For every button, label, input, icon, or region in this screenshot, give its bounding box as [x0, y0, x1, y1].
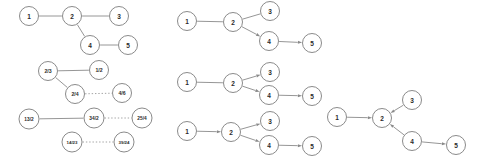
node-label: 14/23 — [67, 140, 79, 145]
graph-node[interactable]: 3 — [261, 2, 280, 21]
node-label: 5 — [454, 142, 458, 149]
graph-panel-fraction-labeled-graph: 2/31/22/44/613/234/225/414/2339/24 — [19, 61, 152, 153]
graph-node[interactable]: 5 — [303, 34, 322, 53]
node-label: 4 — [88, 42, 92, 49]
graph-edge-q2-to-q4 — [241, 135, 256, 140]
diagram-canvas: 123452/31/22/44/613/234/225/414/2339/241… — [0, 0, 484, 168]
graph-node[interactable]: 5 — [303, 137, 322, 156]
graph-edge-m2-to-m3 — [243, 14, 261, 19]
graph-node[interactable]: 4 — [81, 36, 100, 55]
graph-panel-directed-graph-partial-a: 12345 — [178, 2, 322, 53]
arrow-head-icon — [390, 109, 394, 112]
graph-node[interactable]: 5 — [303, 87, 322, 106]
graph-node[interactable]: 1 — [328, 108, 347, 127]
node-label: 2 — [229, 129, 233, 136]
graph-node[interactable]: 13/2 — [19, 109, 39, 129]
node-label: 4 — [267, 38, 271, 45]
node-label: 2 — [231, 19, 235, 26]
node-label: 4/6 — [118, 90, 125, 96]
arrow-head-icon — [442, 142, 446, 145]
graph-node[interactable]: 2 — [224, 13, 243, 32]
graph-diagram-svg: 123452/31/22/44/613/234/225/414/2339/241… — [0, 0, 484, 168]
graph-node[interactable]: 4 — [260, 86, 279, 105]
node-label: 1/2 — [95, 67, 102, 73]
node-label: 1 — [185, 18, 189, 25]
arrow-head-icon — [298, 94, 302, 97]
arrow-head-icon — [298, 41, 302, 44]
graph-node[interactable]: 4 — [260, 32, 279, 51]
graph-edge-f5-to-f6 — [40, 118, 84, 119]
node-label: 5 — [126, 42, 130, 49]
node-label: 1 — [27, 13, 31, 20]
node-label: 3 — [410, 97, 414, 104]
node-label: 39/24 — [119, 140, 131, 145]
arrow-head-icon — [255, 89, 259, 92]
node-label: 2/3 — [44, 68, 51, 74]
graph-edge-r4-to-r2 — [393, 127, 404, 135]
node-label: 2 — [231, 80, 235, 87]
node-label: 1 — [185, 79, 189, 86]
graph-node[interactable]: 2 — [222, 123, 241, 142]
graph-node[interactable]: 4 — [403, 132, 422, 151]
graph-node[interactable]: 4/6 — [113, 84, 132, 103]
graph-node[interactable]: 4 — [260, 136, 279, 155]
node-label: 34/2 — [89, 116, 99, 121]
arrow-head-icon — [368, 116, 372, 119]
graph-node[interactable]: 3 — [261, 63, 280, 82]
node-label: 1 — [185, 128, 189, 135]
node-label: 3 — [268, 8, 272, 15]
graph-node[interactable]: 2 — [63, 7, 82, 26]
graph-node[interactable]: 2 — [224, 74, 243, 93]
graph-node[interactable]: 1 — [178, 12, 197, 31]
graph-panel-directed-graph-full: 12345 — [178, 112, 322, 156]
arrow-head-icon — [256, 123, 260, 126]
node-label: 1 — [335, 114, 339, 121]
graph-edge-r4-to-r5 — [422, 142, 442, 144]
node-label: 25/4 — [137, 116, 147, 121]
graph-node[interactable]: 1 — [178, 122, 197, 141]
graph-edge-r3-to-r2 — [394, 105, 403, 110]
graph-node[interactable]: 5 — [119, 36, 138, 55]
graph-edge-q2-to-q3 — [241, 125, 257, 129]
graph-edge-p2-to-p4 — [243, 86, 256, 90]
graph-node[interactable]: 2 — [373, 109, 392, 128]
graph-panel-undirected-tree: 12345 — [20, 7, 138, 55]
node-label: 5 — [310, 40, 314, 47]
node-label: 4 — [267, 92, 271, 99]
arrow-head-icon — [217, 130, 221, 133]
arrow-head-icon — [255, 139, 259, 142]
graph-panel-directed-graph-partial-b: 12345 — [178, 63, 322, 106]
graph-panel-converging-directed-graph: 12345 — [328, 91, 466, 155]
graph-edge-n2-to-n4 — [77, 25, 84, 37]
graph-edge-m4-to-m5 — [279, 41, 298, 42]
graph-node[interactable]: 3 — [110, 7, 129, 26]
graph-node[interactable]: 25/4 — [132, 108, 152, 128]
node-label: 4 — [267, 142, 271, 149]
node-label: 13/2 — [24, 117, 34, 122]
graph-node[interactable]: 39/24 — [114, 132, 134, 152]
graph-edge-p2-to-p3 — [243, 76, 257, 80]
node-label: 4 — [410, 138, 414, 145]
graph-node[interactable]: 3 — [403, 91, 422, 110]
arrow-head-icon — [256, 33, 260, 36]
graph-node[interactable]: 1/2 — [90, 61, 109, 80]
node-label: 3 — [268, 118, 272, 125]
graph-node[interactable]: 14/23 — [62, 132, 82, 152]
graph-node[interactable]: 2/3 — [39, 62, 58, 81]
node-label: 5 — [310, 143, 314, 150]
node-label: 2/4 — [71, 91, 78, 97]
graph-node[interactable]: 3 — [261, 112, 280, 131]
graph-edge-m2-to-m4 — [242, 27, 256, 35]
graph-node[interactable]: 2/4 — [66, 85, 85, 104]
graph-edge-p1-to-p2 — [197, 82, 223, 83]
node-label: 5 — [310, 93, 314, 100]
arrow-head-icon — [256, 75, 260, 78]
graph-node[interactable]: 5 — [447, 136, 466, 155]
arrow-head-icon — [298, 144, 302, 147]
graph-edge-f1-to-f2 — [58, 70, 89, 71]
graph-node[interactable]: 1 — [178, 73, 197, 92]
graph-edge-f3-to-f4 — [85, 93, 112, 94]
graph-node[interactable]: 34/2 — [84, 108, 104, 128]
graph-edge-f1-to-f3 — [56, 78, 68, 88]
graph-node[interactable]: 1 — [20, 7, 39, 26]
